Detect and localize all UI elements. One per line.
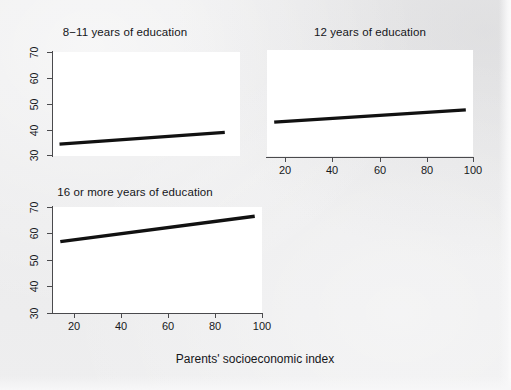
trend-line-8-11-years xyxy=(60,132,225,144)
panel-16-or-more-years: 16 or more years of education 70 60 50 4… xyxy=(0,186,300,346)
trend-line-svg-8-11-years xyxy=(0,26,250,166)
panel-8-11-years: 8−11 years of education 70 60 50 40 30 xyxy=(0,26,250,166)
x-axis-label: Parents' socioeconomic index xyxy=(95,352,415,366)
trend-line-svg-12-years xyxy=(255,26,511,186)
panel-12-years: 12 years of education 20 40 60 80 100 xyxy=(255,26,511,186)
trend-line-16-or-more-years xyxy=(60,216,254,241)
figure-canvas: 8−11 years of education 70 60 50 40 30 1… xyxy=(0,0,511,390)
page-bottom-edge xyxy=(0,376,511,390)
trend-line-12-years xyxy=(274,110,466,122)
trend-line-svg-16-or-more-years xyxy=(0,186,300,346)
